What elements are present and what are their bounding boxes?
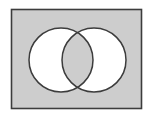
venn-diagram-figure: [0, 0, 157, 120]
venn-diagram-svg: [0, 0, 157, 120]
set-fills-group: [29, 28, 126, 92]
